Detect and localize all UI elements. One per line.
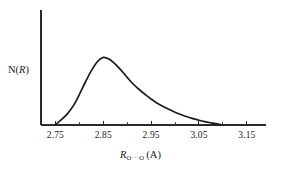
x-axis-label-unit: (A) [146,149,161,160]
x-tick-label: 2.95 [143,130,160,140]
x-tick-label: 3.05 [190,130,207,140]
x-axis-label-subscript: O···O [126,154,144,161]
x-axis-tick-labels: 2.752.852.953.053.15 [47,130,256,140]
x-tick-label: 2.85 [95,130,112,140]
x-axis-label: RO···O(A) [0,150,281,162]
distribution-curve [55,57,223,125]
distribution-plot: 2.752.852.953.053.15 [0,0,281,171]
y-axis-label-suffix: ) [26,64,30,75]
y-axis-label-prefix: N( [8,64,19,75]
x-tick-label: 2.75 [47,130,64,140]
x-tick-label: 3.15 [238,130,255,140]
y-axis-label: N(R) [8,65,29,76]
figure-container: 2.752.852.953.053.15 N(R) RO···O(A) [0,0,281,171]
axes-group [41,10,266,125]
